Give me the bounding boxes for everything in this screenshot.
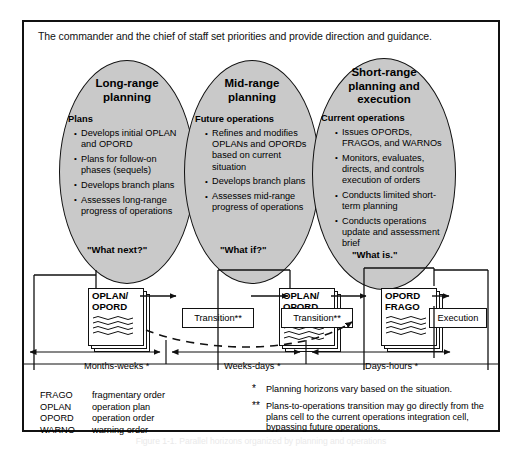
list-item: Refines and modifies OPLANs and OPORDs b… xyxy=(205,128,313,173)
ellipse-3-question: "What is." xyxy=(352,249,397,260)
list-item: Issues OPORDs, FRAGOs, and WARNOs xyxy=(335,127,451,149)
doc-1-wavy-lines xyxy=(92,315,138,337)
footnotes: * Planning horizons vary based on the si… xyxy=(252,384,490,439)
ellipse-2-title-line2: planning xyxy=(228,91,276,103)
ellipse-3-title-line1: Short-range xyxy=(351,66,416,78)
ellipse-1-title: Long-range planning xyxy=(59,77,195,104)
ellipse-2-question: "What if?" xyxy=(220,244,266,255)
abbr-value: fragmentary order xyxy=(92,390,165,402)
ellipse-3-title: Short-range planning and execution xyxy=(312,66,456,107)
ellipse-3-title-line3: execution xyxy=(357,93,411,105)
list-item: Conducts operations update and assessmen… xyxy=(335,216,451,250)
footnote-text: Planning horizons vary based on the situ… xyxy=(266,384,452,395)
footnote-row: ** Plans-to-operations transition may go… xyxy=(252,401,490,433)
ellipse-3-list: Issues OPORDs, FRAGOs, and WARNOs Monito… xyxy=(335,127,451,253)
doc-3-wavy-lines xyxy=(385,315,431,337)
abbr-key: FRAGO xyxy=(40,390,92,402)
ellipse-1-question: "What next?" xyxy=(87,244,147,255)
ellipse-2-subtitle: Future operations xyxy=(195,114,274,124)
list-item: Assesses mid-range progress of operation… xyxy=(205,191,313,213)
list-item: Conducts limited short-term planning xyxy=(335,190,451,212)
banner-text: The commander and the chief of staff set… xyxy=(38,30,488,42)
execution-box: Execution xyxy=(429,308,487,328)
ellipse-1-title-line2: planning xyxy=(103,91,151,103)
ellipse-1-subtitle: Plans xyxy=(68,114,93,124)
abbr-key: OPLAN xyxy=(40,402,92,414)
transition-box-1: Transition** xyxy=(182,308,254,328)
list-item: Develops branch plans xyxy=(205,176,313,187)
abbr-row: WARNO warning order xyxy=(40,425,240,437)
diagram-frame: The commander and the chief of staff set… xyxy=(22,20,500,432)
list-item: Monitors, evaluates, directs, and contro… xyxy=(335,153,451,187)
abbreviation-legend: FRAGO fragmentary order OPLAN operation … xyxy=(40,390,240,436)
ellipse-1-title-line1: Long-range xyxy=(95,77,158,89)
timeline-label-2: Weeks-days * xyxy=(224,361,281,371)
doc-oplan-oporD-1: OPLAN/ OPORD xyxy=(88,288,150,352)
figure-caption: Figure 1-1. Parallel horizons organized … xyxy=(0,436,522,446)
footnote-row: * Planning horizons vary based on the si… xyxy=(252,384,490,395)
abbr-row: FRAGO fragmentary order xyxy=(40,390,240,402)
list-item: Develops initial OPLAN and OPORD xyxy=(74,128,186,150)
abbr-value: operation order xyxy=(92,413,154,425)
abbr-key: OPORD xyxy=(40,413,92,425)
ellipse-2-title-line1: Mid-range xyxy=(225,77,280,89)
doc-1-label: OPLAN/ OPORD xyxy=(88,288,144,312)
abbr-key: WARNO xyxy=(40,425,92,437)
footnote-marker: * xyxy=(252,384,266,395)
timeline-label-3: Days-hours * xyxy=(365,361,418,371)
abbr-value: operation plan xyxy=(92,402,150,414)
list-item: Assesses long-range progress of operatio… xyxy=(74,195,186,217)
abbr-value: warning order xyxy=(92,425,148,437)
transition-box-2: Transition** xyxy=(281,308,353,328)
abbr-row: OPLAN operation plan xyxy=(40,402,240,414)
ellipse-2-title: Mid-range planning xyxy=(184,77,320,104)
timeline-label-1: Months-weeks * xyxy=(84,361,149,371)
ellipse-3-subtitle: Current operations xyxy=(321,113,405,123)
list-item: Develops branch plans xyxy=(74,180,186,191)
footnote-marker: ** xyxy=(252,401,266,433)
ellipse-2-list: Refines and modifies OPLANs and OPORDs b… xyxy=(205,128,313,217)
ellipse-1-list: Develops initial OPLAN and OPORD Plans f… xyxy=(74,128,186,220)
footnote-text: Plans-to-operations transition may go di… xyxy=(266,401,490,433)
abbr-row: OPORD operation order xyxy=(40,413,240,425)
list-item: Plans for follow-on phases (sequels) xyxy=(74,154,186,176)
ellipse-3-title-line2: planning and xyxy=(348,80,420,92)
